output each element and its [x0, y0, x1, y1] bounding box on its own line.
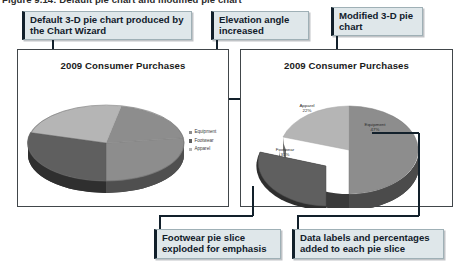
callout-exploded-stem [159, 216, 161, 229]
right-slice-footwear [258, 152, 326, 206]
callout-exploded: Footwear pie slice exploded for emphasis [154, 229, 281, 259]
data-label-equipment: Equipment 47% [349, 122, 401, 132]
legend-swatch-icon [189, 131, 192, 134]
legend-swatch-icon [189, 148, 192, 151]
data-label-apparel: Apparel 22% [285, 103, 329, 113]
callout-exploded-leader-h [159, 215, 253, 217]
legend-swatch-icon [189, 139, 192, 142]
legend-item-equipment: Equipment [189, 128, 216, 137]
right-pie-chart [241, 50, 454, 208]
callout-datalabels-leader-v [418, 133, 420, 216]
callout-exploded-leader-v [252, 186, 254, 216]
data-label-footwear: Footwear 31% [261, 147, 309, 157]
right-chart-frame: 2009 Consumer Purchases [240, 49, 453, 207]
callout-datalabels-leader-h [297, 215, 419, 217]
legend-label: Apparel [194, 145, 210, 154]
callout-datalabels-leader-top [372, 132, 419, 134]
left-chart-legend: Equipment Footwear Apparel [189, 128, 216, 154]
callout-default-chart: Default 3-D pie chart produced by the Ch… [22, 11, 192, 40]
figure-caption: Figure 9.14: Default pie chart and modif… [2, 0, 322, 5]
data-label-apparel-pct: 22% [303, 108, 312, 113]
legend-label: Footwear [194, 137, 213, 146]
callout-elevation: Elevation angle increased [211, 11, 309, 40]
data-label-footwear-pct: 31% [281, 152, 290, 157]
callout-modified-chart: Modified 3-D pie chart [331, 7, 423, 36]
legend-label: Equipment [194, 128, 216, 137]
callout-modified-stem-left [336, 36, 338, 50]
legend-item-footwear: Footwear [189, 137, 216, 146]
callout-datalabels-stem [297, 216, 299, 229]
callout-default-stem-upper [52, 40, 54, 49]
left-chart-frame: 2009 Consumer Purchases [17, 49, 229, 207]
legend-item-apparel: Apparel [189, 145, 216, 154]
callout-data-labels: Data labels and percentages added to eac… [292, 229, 444, 259]
figure-root: Figure 9.14: Default pie chart and modif… [0, 0, 471, 279]
